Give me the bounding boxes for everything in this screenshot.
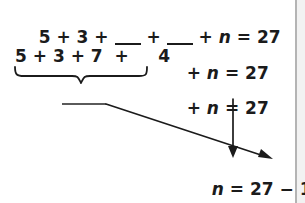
worksheet-canvas: 5 + 3 + + + n = 27 5 + 3 + 7 + 4 + n = 2… [0, 0, 305, 203]
line2-result: 27 [245, 63, 269, 83]
line4-minus: − [274, 179, 300, 199]
equation-line-2-grouped-terms: 5 + 3 + 7 + 4 [15, 48, 170, 65]
line1-equals: = [231, 27, 257, 47]
equation-line-3: + n = 27 [163, 83, 269, 134]
answer-blank-1[interactable] [115, 31, 141, 45]
line1-prefix: 5 + 3 + [39, 27, 115, 47]
answer-blank-2[interactable] [167, 31, 193, 45]
line3-equals: = [219, 98, 245, 118]
line1-result: 27 [257, 27, 281, 47]
underbrace-icon [15, 67, 147, 83]
line4-minuend: 27 [250, 179, 274, 199]
equation-line-4: n = 27 − 19 [188, 164, 305, 203]
line1-op: + [193, 27, 219, 47]
variable-n-line3: n [207, 98, 219, 118]
blank-sum-line[interactable] [62, 103, 106, 105]
variable-n-line1: n [219, 27, 231, 47]
variable-n-line2: n [207, 63, 219, 83]
variable-n-line4: n [212, 179, 224, 199]
line4-subtrahend: 19 [300, 179, 305, 199]
line2-op: + [187, 63, 207, 83]
line3-op: + [187, 98, 207, 118]
line4-equals: = [224, 179, 250, 199]
line1-mid: + [141, 27, 167, 47]
line3-result: 27 [245, 98, 269, 118]
line2-equals: = [219, 63, 245, 83]
